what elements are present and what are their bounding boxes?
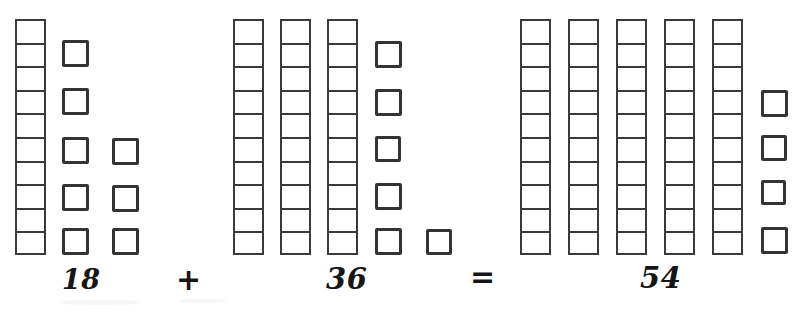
rod-unit-cell — [15, 161, 46, 185]
rod-unit-cell — [664, 43, 695, 67]
loose-unit-cube — [761, 227, 788, 254]
rod-unit-cell — [664, 66, 695, 90]
rod-unit-cell — [233, 90, 264, 114]
rod-unit-cell — [280, 113, 311, 137]
rod-unit-cell — [616, 231, 647, 255]
rod-unit-cell — [327, 161, 358, 185]
rod-unit-cell — [233, 184, 264, 208]
rod-unit-cell — [664, 184, 695, 208]
tens-rod — [664, 19, 695, 255]
rod-unit-cell — [712, 66, 743, 90]
rod-unit-cell — [15, 184, 46, 208]
rod-unit-cell — [568, 66, 599, 90]
rod-unit-cell — [568, 208, 599, 232]
rod-unit-cell — [280, 43, 311, 67]
tens-rod — [15, 19, 46, 255]
tens-rod — [280, 19, 311, 255]
loose-unit-cube — [62, 40, 89, 67]
tens-rod — [616, 19, 647, 255]
loose-unit-cube — [62, 184, 89, 211]
rod-unit-cell — [233, 137, 264, 161]
loose-unit-cube — [62, 137, 89, 164]
rod-unit-cell — [327, 19, 358, 43]
rod-unit-cell — [280, 19, 311, 43]
rod-unit-cell — [280, 184, 311, 208]
rod-unit-cell — [520, 184, 551, 208]
rod-unit-cell — [233, 161, 264, 185]
rod-unit-cell — [280, 137, 311, 161]
rod-unit-cell — [280, 231, 311, 255]
rod-unit-cell — [712, 19, 743, 43]
rod-unit-cell — [712, 184, 743, 208]
equals-operator: = — [470, 259, 495, 294]
rod-unit-cell — [280, 66, 311, 90]
rod-unit-cell — [616, 161, 647, 185]
loose-unit-cube — [761, 180, 786, 205]
rod-unit-cell — [15, 19, 46, 43]
loose-unit-cube — [375, 136, 401, 162]
rod-unit-cell — [712, 43, 743, 67]
rod-unit-cell — [233, 113, 264, 137]
rod-unit-cell — [520, 66, 551, 90]
addend-two-label: 36 — [326, 262, 367, 296]
rod-unit-cell — [616, 66, 647, 90]
rod-unit-cell — [664, 208, 695, 232]
rod-unit-cell — [15, 113, 46, 137]
rod-unit-cell — [712, 161, 743, 185]
loose-unit-cube — [761, 90, 788, 117]
rod-unit-cell — [712, 137, 743, 161]
rod-unit-cell — [520, 19, 551, 43]
base-ten-blocks-figure: 18 + — [0, 0, 795, 329]
rod-unit-cell — [233, 66, 264, 90]
scan-artifact — [60, 300, 140, 305]
rod-unit-cell — [712, 90, 743, 114]
rod-unit-cell — [327, 137, 358, 161]
sum-label: 54 — [640, 261, 681, 295]
tens-rod — [520, 19, 551, 255]
rod-unit-cell — [664, 90, 695, 114]
rod-unit-cell — [616, 19, 647, 43]
rod-unit-cell — [712, 208, 743, 232]
rod-unit-cell — [327, 90, 358, 114]
rod-unit-cell — [233, 231, 264, 255]
rod-unit-cell — [15, 66, 46, 90]
loose-unit-cube — [62, 228, 89, 255]
rod-unit-cell — [15, 43, 46, 67]
rod-unit-cell — [616, 184, 647, 208]
rod-unit-cell — [327, 113, 358, 137]
addend-one-label: 18 — [62, 264, 101, 295]
rod-unit-cell — [15, 90, 46, 114]
rod-unit-cell — [520, 137, 551, 161]
rod-unit-cell — [233, 43, 264, 67]
rod-unit-cell — [233, 208, 264, 232]
rod-unit-cell — [664, 19, 695, 43]
rod-unit-cell — [280, 90, 311, 114]
rod-unit-cell — [568, 43, 599, 67]
rod-unit-cell — [280, 208, 311, 232]
rod-unit-cell — [520, 161, 551, 185]
rod-unit-cell — [616, 113, 647, 137]
rod-unit-cell — [15, 231, 46, 255]
loose-unit-cube — [761, 135, 787, 161]
rod-unit-cell — [616, 90, 647, 114]
rod-unit-cell — [568, 137, 599, 161]
rod-unit-cell — [233, 19, 264, 43]
rod-unit-cell — [664, 231, 695, 255]
loose-unit-cube — [375, 228, 402, 255]
tens-rod — [712, 19, 743, 255]
tens-rod — [233, 19, 264, 255]
rod-unit-cell — [520, 231, 551, 255]
scan-artifact — [180, 299, 226, 303]
rod-unit-cell — [520, 43, 551, 67]
rod-unit-cell — [616, 43, 647, 67]
rod-unit-cell — [15, 137, 46, 161]
rod-unit-cell — [327, 43, 358, 67]
rod-unit-cell — [712, 113, 743, 137]
tens-rod — [327, 19, 358, 255]
rod-unit-cell — [15, 208, 46, 232]
loose-unit-cube — [375, 89, 402, 116]
rod-unit-cell — [568, 113, 599, 137]
rod-unit-cell — [280, 161, 311, 185]
loose-unit-cube — [375, 183, 402, 210]
loose-unit-cube — [62, 88, 89, 115]
